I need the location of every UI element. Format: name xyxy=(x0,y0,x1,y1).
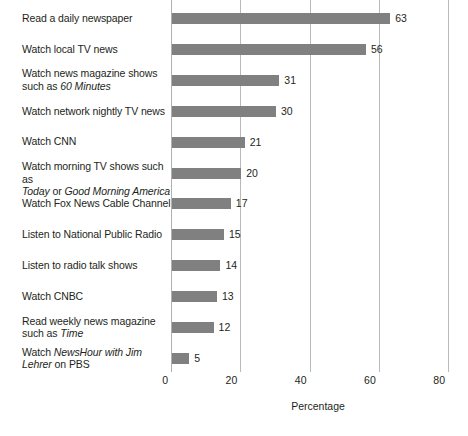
gridline-20 xyxy=(240,0,241,372)
bar-value-label: 17 xyxy=(236,198,248,209)
plot-area: 63563130212017151413125 xyxy=(171,0,448,372)
gridline-0 xyxy=(171,0,172,372)
x-tick-label-0: 0 xyxy=(162,374,171,386)
bar xyxy=(172,353,189,364)
x-tick-label-80: 80 xyxy=(433,374,448,386)
bar-chart: Read a daily newspaperWatch local TV new… xyxy=(0,0,468,436)
bar xyxy=(172,322,214,333)
x-tick-label-40: 40 xyxy=(295,374,310,386)
category-label-column: Read a daily newspaperWatch local TV new… xyxy=(22,0,168,372)
bar-value-label: 20 xyxy=(246,168,258,179)
bar-value-label: 5 xyxy=(194,353,200,364)
bar-value-label: 12 xyxy=(219,322,231,333)
x-tick-label-20: 20 xyxy=(226,374,241,386)
gridline-60 xyxy=(379,0,380,372)
category-label: Watch news magazine showssuch as 60 Minu… xyxy=(22,67,172,92)
bar xyxy=(172,44,366,55)
bar xyxy=(172,168,241,179)
category-label: Read a daily newspaper xyxy=(22,12,172,24)
gridline-80 xyxy=(448,0,449,372)
bar xyxy=(172,198,231,209)
x-axis-title: Percentage xyxy=(0,400,468,412)
category-label: Watch morning TV shows such asToday or G… xyxy=(22,160,172,197)
category-label: Watch NewsHour with JimLehrer on PBS xyxy=(22,346,172,371)
bar xyxy=(172,229,224,240)
category-label: Watch CNN xyxy=(22,135,172,147)
bar-value-label: 14 xyxy=(225,260,237,271)
category-label: Listen to radio talk shows xyxy=(22,259,172,271)
category-label: Watch network nightly TV news xyxy=(22,105,172,117)
bar xyxy=(172,260,220,271)
bar-value-label: 21 xyxy=(250,137,262,148)
category-label: Listen to National Public Radio xyxy=(22,228,172,240)
category-label: Watch Fox News Cable Channel xyxy=(22,197,172,209)
bar xyxy=(172,291,217,302)
bar-value-label: 15 xyxy=(229,229,241,240)
bar xyxy=(172,137,245,148)
bar xyxy=(172,13,390,24)
bar-value-label: 13 xyxy=(222,291,234,302)
bar xyxy=(172,106,276,117)
category-label: Watch CNBC xyxy=(22,290,172,302)
gridline-40 xyxy=(310,0,311,372)
bar-value-label: 31 xyxy=(284,75,296,86)
bar xyxy=(172,75,279,86)
category-label: Read weekly news magazinesuch as Time xyxy=(22,315,172,340)
bar-value-label: 56 xyxy=(371,44,383,55)
bar-value-label: 30 xyxy=(281,106,293,117)
category-label: Watch local TV news xyxy=(22,43,172,55)
x-tick-label-60: 60 xyxy=(364,374,379,386)
bar-value-label: 63 xyxy=(395,13,407,24)
x-axis-title-text: Percentage xyxy=(291,400,345,412)
